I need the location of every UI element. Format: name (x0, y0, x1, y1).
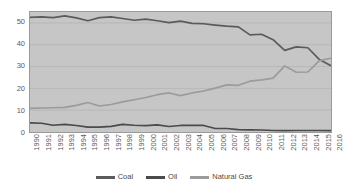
y-tick-label: 20 (17, 85, 25, 93)
x-tick-label: 2013 (301, 134, 309, 151)
legend-label: Oil (168, 173, 177, 181)
line-chart: 01020304050 1990199119921993199419951996… (0, 0, 348, 192)
legend-entry[interactable]: Oil (146, 173, 177, 181)
legend-entry[interactable]: Coal (96, 173, 133, 181)
x-tick-label: 2014 (313, 134, 321, 151)
x-tick-label: 2015 (325, 134, 333, 151)
x-tick-label: 2011 (278, 134, 286, 150)
y-tick-label: 10 (17, 107, 25, 115)
x-tick-label: 1994 (80, 134, 88, 151)
legend-swatch-icon (96, 176, 115, 179)
y-tick-label: 50 (17, 18, 25, 26)
x-tick-label: 1993 (68, 134, 76, 151)
y-tick-label: 30 (17, 63, 25, 71)
legend-label: Natural Gas (212, 173, 252, 181)
x-axis: 1990199119921993199419951996199719981999… (29, 134, 332, 168)
x-tick-label: 2008 (243, 134, 251, 151)
x-tick-label: 2009 (255, 134, 263, 151)
series-line-natural-gas (30, 58, 331, 108)
series-line-oil (30, 123, 331, 131)
legend-entry[interactable]: Natural Gas (190, 173, 252, 181)
x-tick-label: 2000 (150, 134, 158, 151)
x-tick-label: 1990 (33, 134, 41, 151)
x-tick-label: 1997 (115, 134, 123, 151)
x-tick-label: 1999 (138, 134, 146, 151)
x-tick-label: 1998 (126, 134, 134, 151)
x-tick-label: 2005 (208, 134, 216, 151)
chart-legend: CoalOilNatural Gas (0, 170, 348, 184)
x-tick-label: 2010 (266, 134, 274, 151)
series-lines (30, 12, 331, 132)
x-tick-label: 1996 (103, 134, 111, 151)
legend-swatch-icon (190, 176, 209, 179)
plot-area (29, 11, 332, 133)
x-tick-label: 2002 (173, 134, 181, 151)
series-line-coal (30, 16, 331, 66)
legend-swatch-icon (146, 176, 165, 179)
x-tick-label: 2012 (290, 134, 298, 151)
y-tick-label: 0 (21, 129, 25, 137)
x-tick-label: 1991 (45, 134, 53, 151)
x-tick-label: 2016 (336, 134, 344, 151)
x-tick-label: 2004 (196, 134, 204, 151)
legend-label: Coal (118, 173, 133, 181)
x-tick-label: 2003 (185, 134, 193, 151)
x-tick-label: 1992 (57, 134, 65, 151)
x-tick-label: 2006 (220, 134, 228, 151)
x-tick-label: 1995 (91, 134, 99, 151)
y-axis: 01020304050 (0, 11, 25, 133)
x-tick-label: 2001 (161, 134, 169, 151)
y-tick-label: 40 (17, 41, 25, 49)
x-tick-label: 2007 (231, 134, 239, 151)
